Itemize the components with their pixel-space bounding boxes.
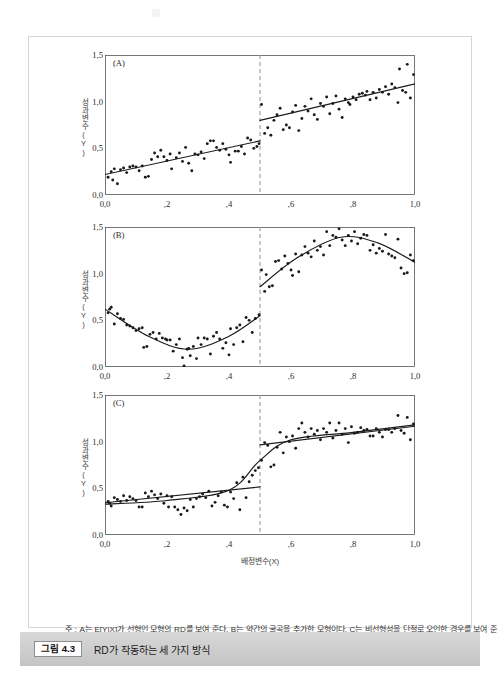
x-tick-label: ,6 bbox=[288, 199, 294, 209]
x-tick-label: ,2 bbox=[164, 199, 170, 209]
y-tick-label: 0,5 bbox=[79, 315, 103, 325]
panel-c: 성과변수(Y) 1,5 1,0 0,5 0,0 (C) 0,0 ,2 ,4 ,6… bbox=[29, 395, 473, 591]
panel-a-x-ticks: 0,0 ,2 ,4 ,6 ,8 1,0 bbox=[105, 197, 415, 213]
panel-c-x-ticks: 0,0 ,2 ,4 ,6 ,8 1,0 bbox=[105, 537, 415, 553]
page-smudge bbox=[152, 9, 160, 17]
panel-c-plot-area bbox=[105, 395, 415, 535]
x-tick-label: ,8 bbox=[350, 199, 356, 209]
y-tick-label: 1,0 bbox=[79, 269, 103, 279]
x-tick-label: ,6 bbox=[288, 371, 294, 381]
x-tick-label: ,4 bbox=[226, 371, 232, 381]
y-tick-label: 1,0 bbox=[79, 437, 103, 447]
figure-caption-number: 그림 4.3 bbox=[34, 641, 82, 658]
figure-caption-bar: 그림 4.3 RD가 작동하는 세 가지 방식 bbox=[20, 632, 480, 666]
panel-b-y-ticks: 1,5 1,0 0,5 0,0 bbox=[73, 227, 103, 367]
x-tick-label: ,2 bbox=[164, 539, 170, 549]
panel-c-y-ticks: 1,5 1,0 0,5 0,0 bbox=[73, 395, 103, 535]
x-tick-label: ,8 bbox=[350, 539, 356, 549]
panel-c-svg bbox=[105, 395, 415, 535]
x-tick-label: ,6 bbox=[288, 539, 294, 549]
x-tick-label: 1,0 bbox=[410, 199, 421, 209]
y-tick-label: 0,5 bbox=[79, 143, 103, 153]
x-tick-label: ,8 bbox=[350, 371, 356, 381]
panel-a-letter: (A) bbox=[113, 58, 125, 68]
y-tick-label: 1,5 bbox=[79, 222, 103, 232]
panel-b: 성과변수(Y) 1,5 1,0 0,5 0,0 (B) 0,0 ,2 ,4 ,6… bbox=[29, 227, 473, 395]
panel-a-y-ticks: 1,5 1,0 0,5 0,0 bbox=[73, 55, 103, 195]
x-tick-label: 1,0 bbox=[410, 371, 421, 381]
figure-caption-title: RD가 작동하는 세 가지 방식 bbox=[94, 642, 210, 657]
x-tick-label: ,2 bbox=[164, 371, 170, 381]
x-tick-label: ,4 bbox=[226, 199, 232, 209]
x-tick-label: 0,0 bbox=[100, 199, 111, 209]
panel-a-svg bbox=[105, 55, 415, 195]
y-tick-label: 1,0 bbox=[79, 97, 103, 107]
x-tick-label: 0,0 bbox=[100, 371, 111, 381]
x-tick-label: ,4 bbox=[226, 539, 232, 549]
panel-b-letter: (B) bbox=[113, 230, 124, 240]
x-axis-label: 배정변수(X) bbox=[105, 555, 415, 566]
panel-a: 성과변수(Y) 1,5 1,0 0,5 0,0 (A) 0,0 ,2 ,4 ,6… bbox=[29, 55, 473, 225]
figure-frame: 성과변수(Y) 1,5 1,0 0,5 0,0 (A) 0,0 ,2 ,4 ,6… bbox=[28, 36, 472, 628]
y-tick-label: 1,5 bbox=[79, 50, 103, 60]
panel-c-letter: (C) bbox=[113, 398, 124, 408]
panel-b-plot-area bbox=[105, 227, 415, 367]
panel-a-plot-area bbox=[105, 55, 415, 195]
panel-b-x-ticks: 0,0 ,2 ,4 ,6 ,8 1,0 bbox=[105, 369, 415, 385]
x-tick-label: 0,0 bbox=[100, 539, 111, 549]
panel-b-svg bbox=[105, 227, 415, 367]
y-tick-label: 1,5 bbox=[79, 390, 103, 400]
x-tick-label: 1,0 bbox=[410, 539, 421, 549]
y-tick-label: 0,5 bbox=[79, 483, 103, 493]
